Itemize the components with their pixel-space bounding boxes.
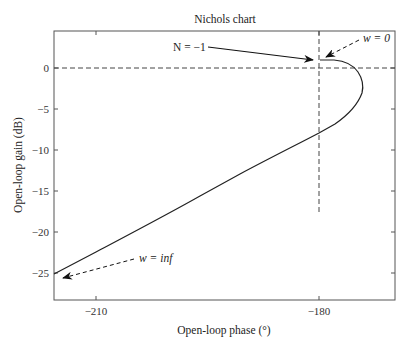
x-tick-label: −180: [308, 305, 331, 317]
chart-title: Nichols chart: [194, 13, 256, 25]
y-tick-label: −15: [32, 185, 50, 197]
n-minus-1-label: N = −1: [173, 41, 206, 53]
w0-label: w = 0: [363, 32, 390, 44]
nichols-chart: Nichols chart 0 −5 −10 −15 −20 −25 −210 …: [0, 0, 409, 343]
nichols-curve: [54, 60, 363, 274]
y-axis: [54, 68, 395, 273]
x-tick-label: −210: [85, 305, 108, 317]
n-minus-1-arrow: [208, 47, 313, 60]
y-tick-label: −5: [37, 103, 49, 115]
y-tick-label: 0: [44, 62, 50, 74]
winf-arrow: [63, 259, 134, 278]
x-axis-label: Open-loop phase (°): [177, 324, 271, 337]
plot-area: [54, 31, 395, 300]
w0-arrow: [326, 40, 359, 57]
winf-label: w = inf: [139, 252, 174, 265]
y-tick-label: −25: [32, 267, 50, 279]
y-tick-label: −20: [32, 226, 50, 238]
y-axis-label: Open-loop gain (dB): [12, 117, 25, 213]
x-axis: [96, 31, 319, 300]
y-tick-label: −10: [32, 144, 50, 156]
